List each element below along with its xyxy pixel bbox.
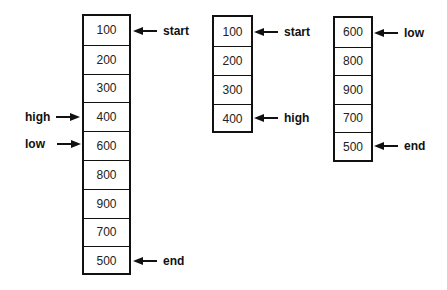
arrow-left-icon — [133, 27, 157, 35]
pointer-label: start — [163, 24, 189, 38]
arrow-right-icon — [57, 140, 81, 148]
right-subarray: 600 800 900 700 500 — [333, 16, 373, 162]
array-cell: 600 — [84, 131, 129, 160]
arrow-left-icon — [254, 114, 278, 122]
array-cell: 200 — [84, 45, 129, 74]
array-cell: 700 — [335, 104, 371, 133]
array-cell: 400 — [214, 104, 251, 133]
pointer-start: start — [254, 25, 310, 39]
pointer-high: high — [254, 111, 309, 125]
array-cell: 900 — [335, 75, 371, 104]
pointer-label: low — [25, 137, 45, 151]
pointer-label: low — [404, 26, 424, 40]
pointer-label: end — [404, 139, 425, 153]
pointer-start: start — [133, 24, 189, 38]
arrow-left-icon — [374, 29, 398, 37]
array-cell: 500 — [335, 132, 371, 161]
arrow-left-icon — [374, 142, 398, 150]
pointer-low: low — [25, 137, 81, 151]
array-cell: 100 — [84, 16, 129, 45]
arrow-right-icon — [56, 113, 80, 121]
array-cell: 300 — [84, 74, 129, 103]
arrow-left-icon — [133, 257, 157, 265]
array-cell: 400 — [84, 102, 129, 131]
array-cell: 100 — [214, 17, 251, 46]
array-cell: 700 — [84, 218, 129, 247]
array-cell: 500 — [84, 246, 129, 275]
array-cell: 800 — [335, 47, 371, 76]
pointer-label: high — [25, 110, 50, 124]
pointer-low: low — [374, 26, 424, 40]
pointer-label: high — [284, 111, 309, 125]
array-cell: 600 — [335, 18, 371, 47]
pointer-label: start — [284, 25, 310, 39]
left-subarray: 100 200 300 400 — [212, 15, 253, 133]
pointer-end: end — [374, 139, 425, 153]
array-cell: 200 — [214, 46, 251, 75]
array-cell: 800 — [84, 160, 129, 189]
arrow-left-icon — [254, 28, 278, 36]
array-cell: 900 — [84, 189, 129, 218]
pointer-high: high — [25, 110, 80, 124]
full-array: 100 200 300 400 600 800 900 700 500 — [82, 14, 131, 275]
pointer-end: end — [133, 254, 184, 268]
array-cell: 300 — [214, 75, 251, 104]
pointer-label: end — [163, 254, 184, 268]
